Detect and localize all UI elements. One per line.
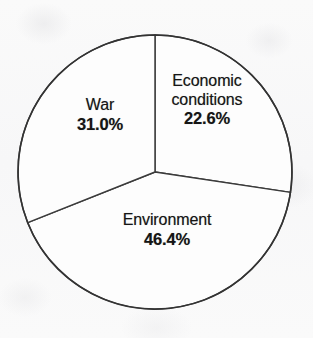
pie-value-environment: 46.4% xyxy=(104,230,230,249)
pie-label-war-line1: War xyxy=(52,96,148,115)
pie-label-environment-line1: Environment xyxy=(104,211,230,230)
pie-label-economic-conditions: Economic conditions 22.6% xyxy=(148,72,266,129)
pie-label-economic-conditions-line1: Economic xyxy=(148,72,266,91)
pie-label-economic-conditions-line2: conditions xyxy=(148,91,266,110)
pie-value-war: 31.0% xyxy=(52,115,148,134)
pie-label-war: War 31.0% xyxy=(52,96,148,134)
pie-value-economic-conditions: 22.6% xyxy=(148,109,266,128)
pie-chart-figure: Economic conditions 22.6% War 31.0% Envi… xyxy=(0,0,313,338)
pie-chart-graphic xyxy=(0,0,313,338)
pie-label-environment: Environment 46.4% xyxy=(104,211,230,249)
